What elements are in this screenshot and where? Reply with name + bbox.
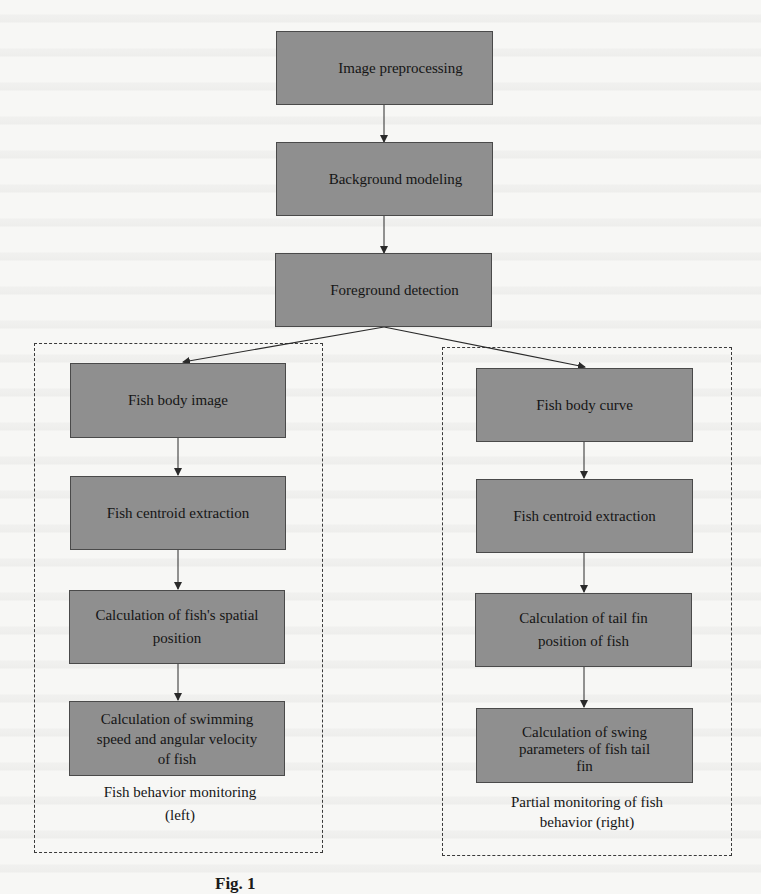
left-group-label-line1: Fish behavior monitoring <box>50 781 310 804</box>
box-label-line3: of fish <box>158 749 197 769</box>
box-foreground-detection: Foreground detection <box>275 253 492 327</box>
box-image-preprocessing: Image preprocessing <box>276 31 493 105</box>
box-swing-parameters: Calculation of swing parameters of fish … <box>476 708 693 783</box>
box-label: Foreground detection <box>330 279 459 302</box>
box-label-line1: Calculation of fish's spatial <box>95 604 258 627</box>
box-speed-angular-velocity: Calculation of swimming speed and angula… <box>69 701 285 776</box>
box-fish-body-image: Fish body image <box>70 363 286 438</box>
box-label: Fish body curve <box>536 394 633 417</box>
box-label-line2: speed and angular velocity <box>97 729 257 749</box>
left-group-label: Fish behavior monitoring (left) <box>50 781 310 827</box>
left-group-label-line2: (left) <box>50 804 310 827</box>
arrow-foreground-to-right <box>384 327 585 367</box>
right-group-label-line2: behavior (right) <box>462 812 712 832</box>
figure-caption: Fig. 1 <box>215 874 256 894</box>
box-label: Image preprocessing <box>338 57 463 80</box>
box-spatial-position: Calculation of fish's spatial position <box>69 590 285 664</box>
box-label-line2: parameters of fish tail <box>519 741 650 758</box>
box-fish-centroid-extraction-right: Fish centroid extraction <box>476 479 693 553</box>
right-group-label: Partial monitoring of fish behavior (rig… <box>462 792 712 832</box>
box-label: Background modeling <box>329 168 463 191</box>
box-label-line1: Calculation of tail fin <box>519 607 648 630</box>
box-label-line3: fin <box>576 758 593 775</box>
box-label: Fish centroid extraction <box>513 505 655 528</box>
box-fish-centroid-extraction-left: Fish centroid extraction <box>70 476 286 550</box>
box-tail-fin-position: Calculation of tail fin position of fish <box>475 593 692 667</box>
right-group-label-line1: Partial monitoring of fish <box>462 792 712 812</box>
box-label: Fish body image <box>128 389 228 412</box>
box-label-line2: position <box>153 627 201 650</box>
box-label-line2: position of fish <box>538 630 629 653</box>
box-label: Fish centroid extraction <box>107 502 249 525</box>
box-background-modeling: Background modeling <box>276 142 493 216</box>
box-label-line1: Calculation of swing <box>522 724 647 741</box>
box-label-line1: Calculation of swimming <box>101 709 253 729</box>
box-fish-body-curve: Fish body curve <box>476 368 693 442</box>
arrow-foreground-to-left <box>183 327 384 362</box>
